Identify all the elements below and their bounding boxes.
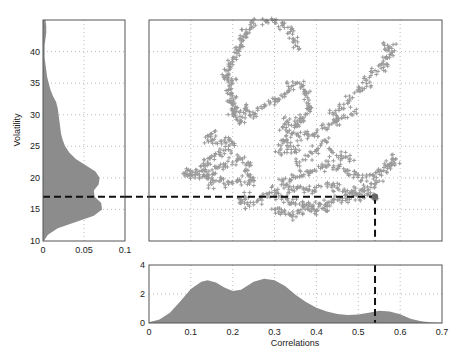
y-tick-label: 2 xyxy=(140,289,145,299)
volatility-density-area xyxy=(43,20,102,241)
x-axis-label: Correlations xyxy=(271,338,320,348)
scatter-panel xyxy=(149,16,442,241)
y-tick-label: 25 xyxy=(30,141,40,151)
volatility-density-panel: 1015202530354000.050.1 Volatility xyxy=(12,20,149,255)
scatter-axes-frame xyxy=(149,20,442,241)
y-axis-label: Volatility xyxy=(12,113,22,147)
figure: 1015202530354000.050.1 Volatility 02400.… xyxy=(0,0,466,360)
y-tick-label: 35 xyxy=(30,78,40,88)
x-tick-label: 0.05 xyxy=(75,245,93,255)
x-tick-label: 0.7 xyxy=(436,327,449,337)
x-tick-label: 0 xyxy=(40,245,45,255)
x-tick-label: 0 xyxy=(146,327,151,337)
x-tick-label: 0.4 xyxy=(310,327,323,337)
y-tick-label: 30 xyxy=(30,110,40,120)
chart-canvas: 1015202530354000.050.1 Volatility 02400.… xyxy=(0,0,466,360)
correlation-density-area xyxy=(149,279,442,323)
scatter-gridlines xyxy=(149,20,442,241)
y-tick-label: 4 xyxy=(140,260,145,270)
scatter-plus-markers xyxy=(181,16,401,222)
y-tick-label: 20 xyxy=(30,173,40,183)
y-tick-label: 0 xyxy=(140,318,145,328)
x-tick-label: 0.5 xyxy=(352,327,365,337)
correlation-density-panel: 02400.10.20.30.40.50.60.7 Correlations xyxy=(140,260,448,348)
x-tick-label: 0.1 xyxy=(119,245,132,255)
y-tick-label: 40 xyxy=(30,47,40,57)
y-tick-label: 15 xyxy=(30,204,40,214)
x-tick-label: 0.2 xyxy=(226,327,239,337)
scatter-points xyxy=(181,16,401,222)
x-tick-label: 0.3 xyxy=(268,327,281,337)
x-tick-label: 0.6 xyxy=(394,327,407,337)
y-tick-label: 10 xyxy=(30,236,40,246)
x-tick-label: 0.1 xyxy=(185,327,198,337)
highlight-point-marker xyxy=(372,194,378,200)
